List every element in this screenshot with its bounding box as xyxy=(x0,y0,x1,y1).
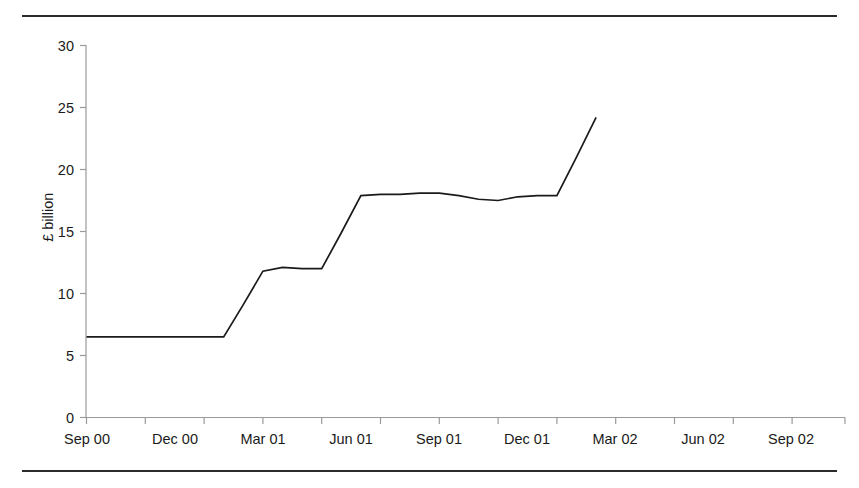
x-tick-label-mar-02: Mar 02 xyxy=(574,432,656,447)
x-tick-label-sep-01: Sep 01 xyxy=(398,432,480,447)
y-axis-title: £ billion xyxy=(41,177,56,257)
y-tick-label-5: 5 xyxy=(36,349,74,364)
x-tick-label-dec-00: Dec 00 xyxy=(134,432,216,447)
y-tick-label-30: 30 xyxy=(36,39,74,54)
x-tick-label-jun-01: Jun 01 xyxy=(310,432,392,447)
plot-area: 30 25 20 15 10 5 0 £ billion Sep 00 Dec … xyxy=(0,0,859,488)
x-tick-label-mar-01: Mar 01 xyxy=(222,432,304,447)
x-tick-label-dec-01: Dec 01 xyxy=(486,432,568,447)
y-tick-label-10: 10 xyxy=(36,287,74,302)
chart-svg xyxy=(0,0,859,488)
x-tick-label-sep-00: Sep 00 xyxy=(46,432,128,447)
y-tick-label-0: 0 xyxy=(36,411,74,426)
data-series-line xyxy=(87,117,597,336)
figure-container: 30 25 20 15 10 5 0 £ billion Sep 00 Dec … xyxy=(0,0,859,488)
y-tick-label-20: 20 xyxy=(36,163,74,178)
x-tick-marks xyxy=(87,418,846,425)
x-tick-label-sep-02: Sep 02 xyxy=(750,432,832,447)
y-tick-label-25: 25 xyxy=(36,101,74,116)
y-tick-marks xyxy=(80,46,86,418)
x-tick-label-jun-02: Jun 02 xyxy=(662,432,744,447)
